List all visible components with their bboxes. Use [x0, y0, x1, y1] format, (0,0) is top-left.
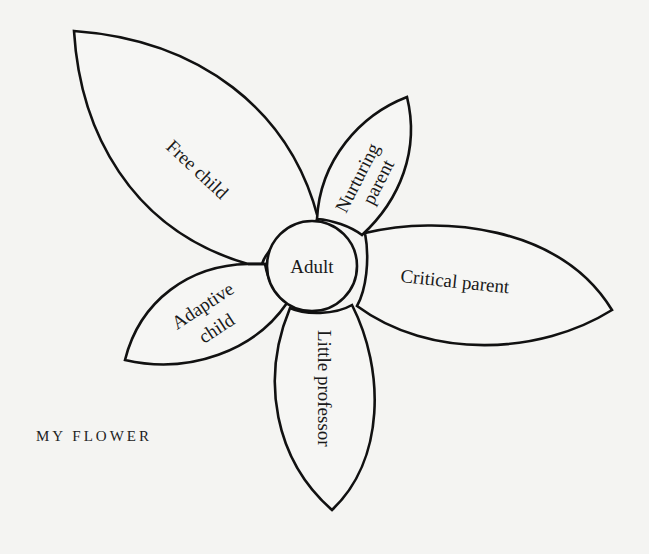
diagram-caption: MY FLOWER	[36, 428, 152, 445]
center-adult: Adult	[267, 221, 357, 311]
petal-adaptive-child: Adaptive child	[125, 264, 287, 364]
petal-nurturing-parent: Nurturing parent	[317, 97, 411, 235]
center-label: Adult	[290, 256, 334, 277]
petal-label-little-professor: Little professor	[314, 330, 335, 447]
petal-free-child: Free child	[74, 31, 318, 264]
petal-critical-parent: Critical parent	[357, 225, 612, 345]
flower-diagram: Free child Nurturing parent Critical par…	[0, 0, 649, 554]
petal-little-professor: Little professor	[275, 305, 375, 510]
